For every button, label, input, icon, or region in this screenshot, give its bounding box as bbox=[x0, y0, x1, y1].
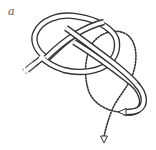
rope bbox=[24, 16, 144, 113]
knot-diagram bbox=[0, 0, 156, 150]
hook-arrowhead-icon bbox=[118, 109, 126, 116]
dotted-arrowhead-icon bbox=[101, 136, 108, 143]
